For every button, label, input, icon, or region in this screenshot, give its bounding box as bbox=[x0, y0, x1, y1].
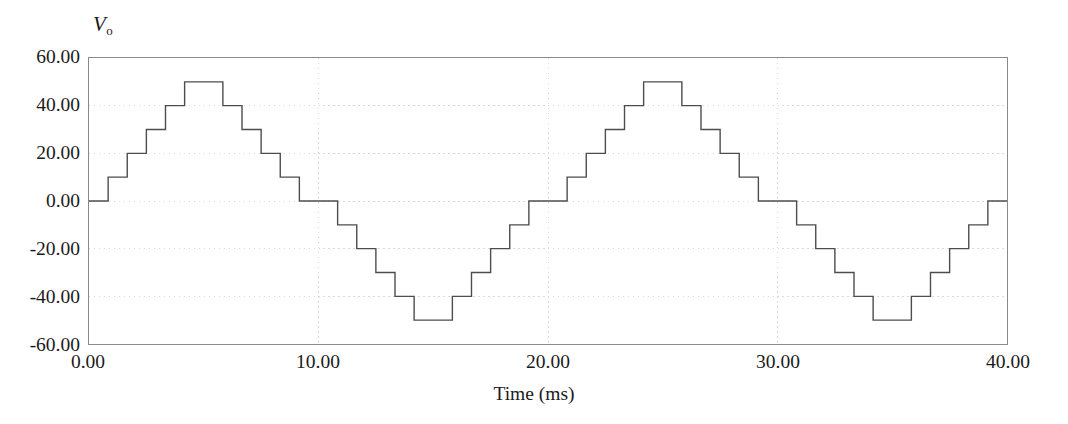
y-axis-tick-label: -20.00 bbox=[2, 239, 80, 259]
x-axis-tick-label: 0.00 bbox=[28, 352, 148, 372]
y-axis-tick-label: 20.00 bbox=[2, 143, 80, 163]
x-axis-label: Time (ms) bbox=[0, 384, 1068, 404]
plot-area bbox=[88, 57, 1008, 345]
y-axis-tick-label: -40.00 bbox=[2, 287, 80, 307]
x-axis-tick-label: 30.00 bbox=[718, 352, 838, 372]
y-axis-tick-label: 40.00 bbox=[2, 95, 80, 115]
y-axis-tick-label: 0.00 bbox=[2, 191, 80, 211]
waveform-svg bbox=[89, 58, 1007, 344]
chart-figure: Vo 60.0040.0020.000.00-20.00-40.00-60.00… bbox=[0, 0, 1068, 424]
y-axis-label-subscript: o bbox=[106, 23, 113, 38]
y-axis-label: Vo bbox=[93, 14, 113, 37]
x-axis-tick-label: 20.00 bbox=[488, 352, 608, 372]
y-axis-tick-label: 60.00 bbox=[2, 47, 80, 67]
x-axis-tick-labels: 0.0010.0020.0030.0040.00 bbox=[0, 352, 1068, 380]
x-axis-tick-label: 40.00 bbox=[948, 352, 1068, 372]
x-axis-tick-label: 10.00 bbox=[258, 352, 378, 372]
y-axis-label-base: V bbox=[93, 12, 106, 36]
